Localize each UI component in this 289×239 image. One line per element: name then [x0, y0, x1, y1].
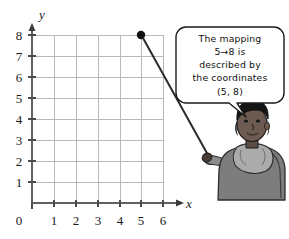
- bubble-line-5: (5, 8): [217, 86, 243, 97]
- bubble-line-2: 5→8 is: [215, 46, 246, 57]
- x-tick-label-4: 4: [117, 213, 124, 228]
- bubble-line-1: The mapping: [198, 33, 262, 44]
- x-tick-label-5: 5: [138, 213, 145, 228]
- grid-lines: [32, 35, 163, 203]
- x-tick-label-3: 3: [95, 213, 102, 228]
- y-tick-label-8: 8: [16, 28, 23, 43]
- y-tick-label-7: 7: [16, 49, 23, 64]
- x-tick-label-6: 6: [160, 213, 167, 228]
- bubble-line-3: described by: [199, 59, 261, 70]
- y-axis-label: y: [37, 7, 45, 22]
- y-tick-label-4: 4: [16, 112, 23, 127]
- origin-label: 0: [16, 213, 23, 228]
- y-tick-label-1: 1: [16, 175, 23, 190]
- x-tick-label-1: 1: [51, 213, 58, 228]
- x-axis-label: x: [185, 196, 192, 211]
- bubble-line-4: the coordinates: [193, 72, 268, 83]
- math-illustration: 8 7 6 5 4 3 2 1 0 1 2 3 4 5 6 y x: [0, 0, 289, 239]
- y-axis-arrowhead: [29, 23, 36, 31]
- y-tick-label-2: 2: [16, 154, 23, 169]
- x-tick-label-2: 2: [73, 213, 80, 228]
- speech-bubble: The mapping 5→8 is described by the coor…: [176, 27, 284, 117]
- y-tick-label-5: 5: [16, 91, 23, 106]
- x-axis-arrowhead: [176, 200, 184, 207]
- ear: [264, 122, 269, 129]
- axis-ticks: [28, 35, 163, 209]
- coordinate-graph: 8 7 6 5 4 3 2 1 0 1 2 3 4 5 6 y x: [0, 0, 289, 239]
- right-eye: [256, 119, 260, 122]
- y-tick-label-6: 6: [16, 70, 23, 85]
- y-tick-label-3: 3: [16, 133, 23, 148]
- left-eye: [244, 119, 248, 122]
